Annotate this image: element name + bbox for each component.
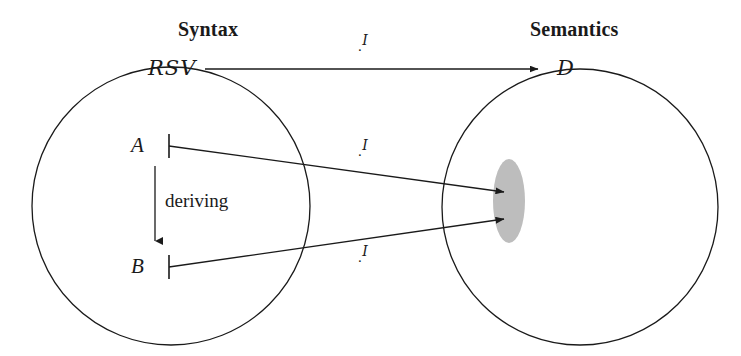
diagram-canvas (0, 0, 741, 356)
deriving-label: deriving (165, 190, 228, 212)
interp-superscript-bottom: I (362, 243, 368, 259)
interpretation-diagram: Syntax Semantics RSV D A B deriving .I .… (0, 0, 741, 356)
semantics-circle (442, 69, 718, 345)
term-a-label: A (131, 133, 144, 158)
denotation-ellipse (493, 159, 525, 243)
syntax-heading: Syntax (178, 18, 238, 41)
interp-superscript-middle: I (362, 137, 368, 153)
semantics-heading: Semantics (530, 18, 618, 41)
interpretation-label-bottom: .I (358, 243, 368, 266)
interp-superscript-top: I (362, 32, 368, 48)
interpretation-label-top: .I (358, 32, 368, 55)
arrow-b-to-denotation (169, 219, 504, 267)
semantics-set-label: D (557, 56, 575, 80)
interpretation-label-middle: .I (358, 137, 368, 160)
term-b-label: B (131, 254, 144, 279)
syntax-set-label: RSV (148, 56, 196, 80)
